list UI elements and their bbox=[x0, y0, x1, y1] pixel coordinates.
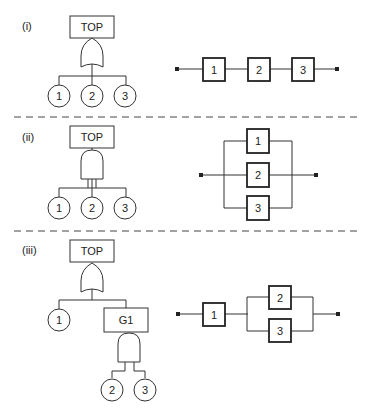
and-gate-icon bbox=[81, 150, 103, 179]
top-event-label: TOP bbox=[81, 21, 103, 33]
panel-iii: (iii) TOP 1 G1 2 3 1 bbox=[22, 240, 340, 401]
fault-tree: TOP 1 G1 2 3 bbox=[48, 240, 156, 401]
rbd-block-label: 1 bbox=[255, 135, 261, 147]
rbd-block-label: 1 bbox=[211, 64, 217, 76]
series-parallel-block-diagram: 1 2 3 bbox=[176, 286, 340, 342]
rbd-block-label: 2 bbox=[256, 64, 262, 76]
top-event-label: TOP bbox=[81, 131, 103, 143]
top-event-label: TOP bbox=[81, 245, 103, 257]
basic-event-label: 2 bbox=[89, 202, 95, 214]
basic-event-label: 1 bbox=[56, 90, 62, 102]
basic-event-label: 3 bbox=[122, 202, 128, 214]
output-node bbox=[336, 312, 340, 316]
basic-event-label: 1 bbox=[56, 202, 62, 214]
or-gate-icon bbox=[81, 38, 103, 67]
basic-event-label: 3 bbox=[122, 90, 128, 102]
rbd-block-label: 3 bbox=[300, 64, 306, 76]
series-block-diagram: 1 2 3 bbox=[175, 58, 339, 81]
rbd-block-label: 3 bbox=[255, 202, 261, 214]
fault-tree: TOP 1 2 3 bbox=[48, 16, 136, 107]
panel-ii: (ii) TOP 1 2 3 1 2 bbox=[22, 126, 318, 220]
rbd-block-label: 1 bbox=[211, 309, 217, 321]
and-gate-icon bbox=[118, 333, 140, 362]
intermediate-gate-label: G1 bbox=[119, 314, 134, 326]
fault-tree-rbd-figure: (i) TOP 1 2 3 1 2 3 bbox=[0, 0, 370, 420]
panel-i: (i) TOP 1 2 3 1 2 3 bbox=[22, 16, 339, 107]
input-node bbox=[199, 173, 203, 177]
basic-event-label: 1 bbox=[56, 314, 62, 326]
parallel-block-diagram: 1 2 3 bbox=[199, 129, 318, 220]
basic-event-label: 3 bbox=[142, 384, 148, 396]
output-node bbox=[335, 67, 339, 71]
rbd-block-label: 3 bbox=[277, 325, 283, 337]
basic-event-label: 2 bbox=[109, 384, 115, 396]
output-node bbox=[314, 173, 318, 177]
rbd-block-label: 2 bbox=[255, 169, 261, 181]
panel-label: (iii) bbox=[22, 244, 37, 256]
panel-label: (i) bbox=[22, 20, 32, 32]
or-gate-icon bbox=[81, 263, 103, 292]
rbd-block-label: 2 bbox=[277, 292, 283, 304]
panel-label: (ii) bbox=[22, 131, 34, 143]
input-node bbox=[176, 312, 180, 316]
input-node bbox=[175, 67, 179, 71]
fault-tree: TOP 1 2 3 bbox=[48, 126, 136, 219]
basic-event-label: 2 bbox=[89, 90, 95, 102]
